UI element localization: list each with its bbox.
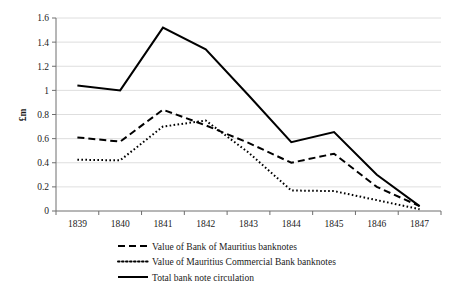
chart-container: 00.20.40.60.811.21.41.618391840184118421… [0,0,450,295]
y-tick-label: 1.2 [37,62,49,72]
y-tick-label: 0 [44,206,49,216]
x-axis-ticks: 183918401841184218431844184518461847 [56,211,441,229]
y-tick-label: 0.2 [37,182,49,192]
x-tick-label: 1842 [196,219,215,229]
y-tick-label: 1.4 [37,38,49,48]
y-tick-label: 0.4 [37,158,49,168]
x-tick-label: 1844 [282,219,301,229]
y-tick-label: 0.6 [37,134,49,144]
x-tick-label: 1841 [153,219,172,229]
legend-label-2: Total bank note circulation [152,273,254,283]
line-chart: 00.20.40.60.811.21.41.618391840184118421… [0,0,450,295]
x-tick-label: 1843 [239,219,258,229]
x-tick-label: 1845 [325,219,344,229]
y-axis-ticks: 00.20.40.60.811.21.41.6 [37,13,56,216]
gridlines [56,18,441,187]
x-tick-label: 1846 [367,219,386,229]
series-group [77,28,419,210]
legend-label-0: Value of Bank of Mauritius banknotes [152,242,297,252]
legend-label-1: Value of Mauritius Commercial Bank bankn… [152,257,336,267]
x-tick-label: 1840 [111,219,130,229]
y-tick-label: 1.6 [37,13,49,23]
legend: Value of Bank of Mauritius banknotesValu… [118,242,336,283]
series-line-0 [77,110,419,206]
y-tick-label: 0.8 [37,110,49,120]
x-tick-label: 1839 [68,219,87,229]
y-axis-title: £m [18,109,28,122]
x-tick-label: 1847 [410,219,429,229]
y-tick-label: 1 [44,86,49,96]
